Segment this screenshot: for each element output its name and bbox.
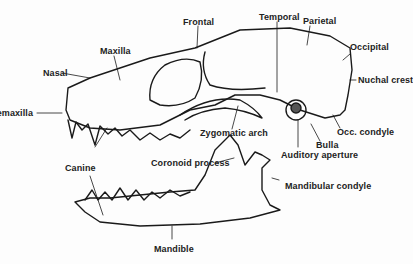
label-zygomatic-arch: Zygomatic arch	[200, 128, 268, 138]
label-canine: Canine	[65, 163, 96, 173]
label-auditory-aperture: Auditory aperture	[281, 150, 358, 160]
label-mandible: Mandible	[154, 244, 194, 254]
label-nuchal-crest: Nuchal crest	[358, 75, 413, 85]
label-frontal: Frontal	[183, 17, 214, 27]
label-bulla: Bulla	[316, 140, 339, 150]
mandible-outline	[75, 135, 280, 226]
label-temporal: Temporal	[259, 12, 300, 22]
label-maxilla: Maxilla	[100, 46, 131, 56]
label-occ-condyle: Occ. condyle	[337, 127, 394, 137]
label-premaxilla: Premaxilla	[0, 108, 33, 118]
label-mandibular-condyle: Mandibular condyle	[285, 181, 371, 191]
skull-diagram: Frontal Temporal Parietal Occipital Maxi…	[0, 0, 413, 264]
upper-teeth	[68, 120, 190, 145]
label-parietal: Parietal	[303, 16, 336, 26]
orbit-outline	[150, 59, 202, 106]
cranium-outline	[66, 28, 352, 130]
label-nasal: Nasal	[43, 68, 68, 78]
label-occipital: Occipital	[350, 42, 389, 52]
label-coronoid-process: Coronoid process	[151, 158, 230, 168]
